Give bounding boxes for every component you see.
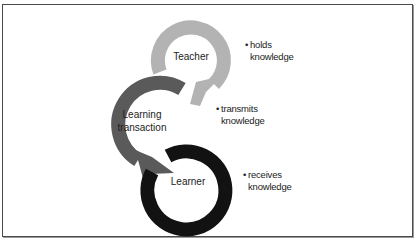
- learner-label: Learner: [171, 176, 206, 187]
- teacher-note-line2: knowledge: [245, 51, 294, 63]
- learner-note-line2: knowledge: [243, 181, 292, 193]
- teacher-ring-arrow: [158, 27, 224, 106]
- learning-transaction-label-line2: transaction: [118, 122, 167, 133]
- transaction-note: •transmits knowledge: [216, 103, 265, 126]
- teacher-learner-cycle-diagram: Teacher Learning transaction Learner: [0, 0, 420, 245]
- learner-note-line1: receives: [248, 169, 282, 180]
- learning-transaction-label-line1: Learning: [123, 109, 162, 120]
- transaction-note-line1: transmits: [221, 103, 258, 114]
- learner-note: •receives knowledge: [243, 169, 292, 192]
- teacher-note-line1: holds: [250, 39, 272, 50]
- teacher-label: Teacher: [173, 51, 209, 62]
- teacher-arrowhead-icon: [190, 76, 222, 106]
- transaction-note-line2: knowledge: [216, 115, 265, 127]
- teacher-note: •holds knowledge: [245, 39, 294, 62]
